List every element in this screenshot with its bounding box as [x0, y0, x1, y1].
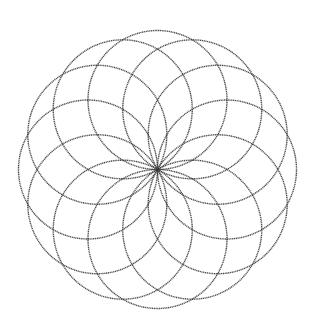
circle-group: [19, 31, 297, 309]
rosette-diagram: [0, 0, 316, 336]
center-point: [156, 168, 159, 171]
